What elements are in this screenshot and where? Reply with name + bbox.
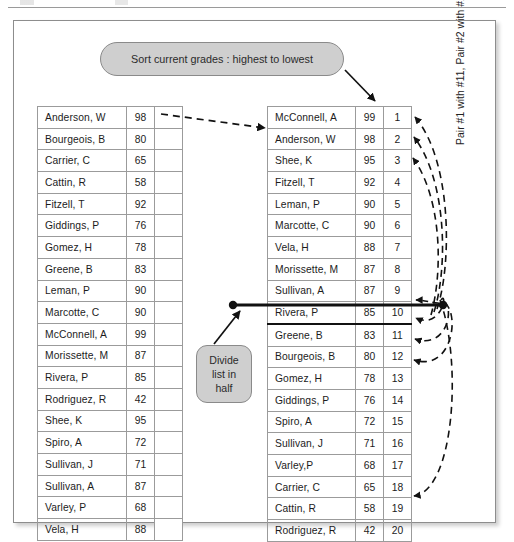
unsorted-student-name: Spiro, A bbox=[38, 432, 127, 454]
unsorted-table-row: Marcotte, C90 bbox=[38, 302, 183, 324]
sorted-table-row: Rivera, P8510 bbox=[268, 302, 412, 324]
unsorted-empty-cell bbox=[155, 475, 183, 497]
sorted-student-grade: 90 bbox=[356, 193, 384, 215]
unsorted-table-row: Rivera, P85 bbox=[38, 367, 183, 389]
sorted-table-row: Morissette, M878 bbox=[268, 258, 412, 280]
unsorted-student-grade: 80 bbox=[127, 128, 155, 150]
sorted-table-row: McConnell, A991 bbox=[268, 107, 412, 129]
sorted-student-name: Leman, P bbox=[268, 193, 356, 215]
sorted-table-row: Rodriguez, R4220 bbox=[268, 520, 412, 542]
sorted-student-rank: 5 bbox=[384, 193, 412, 215]
sorted-student-rank: 15 bbox=[384, 411, 412, 433]
sorted-student-name: Cattin, R bbox=[268, 498, 356, 520]
sorted-student-grade: 68 bbox=[356, 455, 384, 477]
sorted-student-rank: 12 bbox=[384, 346, 412, 368]
sorted-table-row: Fitzell, T924 bbox=[268, 172, 412, 194]
unsorted-empty-cell bbox=[155, 388, 183, 410]
sorted-student-name: Vela, H bbox=[268, 237, 356, 259]
sorted-student-rank: 3 bbox=[384, 150, 412, 172]
page-header-rule bbox=[8, 7, 506, 8]
sorted-student-grade: 92 bbox=[356, 172, 384, 194]
unsorted-table-row: Sullivan, A87 bbox=[38, 475, 183, 497]
unsorted-student-name: McConnell, A bbox=[38, 323, 127, 345]
unsorted-student-grade: 42 bbox=[127, 388, 155, 410]
sorted-student-name: Spiro, A bbox=[268, 411, 356, 433]
sorted-student-rank: 13 bbox=[384, 368, 412, 390]
sorted-student-rank: 4 bbox=[384, 172, 412, 194]
unsorted-student-grade: 71 bbox=[127, 454, 155, 476]
unsorted-table-row: Cattin, R58 bbox=[38, 172, 183, 194]
unsorted-student-grade: 95 bbox=[127, 410, 155, 432]
unsorted-student-grade: 99 bbox=[127, 323, 155, 345]
sorted-student-rank: 11 bbox=[384, 324, 412, 346]
unsorted-empty-cell bbox=[155, 497, 183, 519]
unsorted-student-name: Giddings, P bbox=[38, 215, 127, 237]
sorted-student-rank: 7 bbox=[384, 237, 412, 259]
unsorted-student-name: Anderson, W bbox=[38, 107, 127, 129]
sorted-student-name: Giddings, P bbox=[268, 389, 356, 411]
unsorted-empty-cell bbox=[155, 150, 183, 172]
unsorted-table-row: Anderson, W98 bbox=[38, 107, 183, 129]
sorted-student-name: McConnell, A bbox=[268, 107, 356, 129]
sorted-grades-table: McConnell, A991Anderson, W982Shee, K953F… bbox=[267, 106, 412, 542]
sorted-student-grade: 85 bbox=[356, 302, 384, 324]
sorted-student-name: Rodriguez, R bbox=[268, 520, 356, 542]
unsorted-student-name: Marcotte, C bbox=[38, 302, 127, 324]
unsorted-student-grade: 90 bbox=[127, 302, 155, 324]
sorted-table-row: Spiro, A7215 bbox=[268, 411, 412, 433]
sorted-student-rank: 18 bbox=[384, 476, 412, 498]
unsorted-student-grade: 78 bbox=[127, 237, 155, 259]
sorted-student-grade: 72 bbox=[356, 411, 384, 433]
sorted-student-name: Greene, B bbox=[268, 324, 356, 346]
unsorted-empty-cell bbox=[155, 280, 183, 302]
unsorted-student-grade: 92 bbox=[127, 193, 155, 215]
sorted-student-name: Fitzell, T bbox=[268, 172, 356, 194]
unsorted-student-grade: 88 bbox=[127, 519, 155, 541]
divide-callout-line-2: list in bbox=[212, 367, 236, 381]
sorted-student-rank: 14 bbox=[384, 389, 412, 411]
sorted-student-grade: 78 bbox=[356, 368, 384, 390]
sorted-student-grade: 80 bbox=[356, 346, 384, 368]
sorted-student-grade: 87 bbox=[356, 280, 384, 302]
sorted-table-row: Giddings, P7614 bbox=[268, 389, 412, 411]
unsorted-student-grade: 87 bbox=[127, 345, 155, 367]
unsorted-table-row: Giddings, P76 bbox=[38, 215, 183, 237]
sorted-student-rank: 10 bbox=[384, 302, 412, 324]
divide-callout-line-1: Divide bbox=[209, 353, 238, 367]
unsorted-table-row: McConnell, A99 bbox=[38, 323, 183, 345]
unsorted-student-name: Cattin, R bbox=[38, 172, 127, 194]
sorted-table-row: Leman, P905 bbox=[268, 193, 412, 215]
sorted-student-rank: 1 bbox=[384, 107, 412, 129]
unsorted-student-name: Sullivan, J bbox=[38, 454, 127, 476]
unsorted-empty-cell bbox=[155, 237, 183, 259]
unsorted-empty-cell bbox=[155, 410, 183, 432]
unsorted-empty-cell bbox=[155, 215, 183, 237]
sorted-table-row: Shee, K953 bbox=[268, 150, 412, 172]
unsorted-student-grade: 85 bbox=[127, 367, 155, 389]
sorted-table-row: Marcotte, C906 bbox=[268, 215, 412, 237]
unsorted-student-name: Varley, P bbox=[38, 497, 127, 519]
sorted-student-name: Rivera, P bbox=[268, 302, 356, 324]
unsorted-student-name: Morissette, M bbox=[38, 345, 127, 367]
unsorted-table-row: Gomez, H78 bbox=[38, 237, 183, 259]
unsorted-student-name: Rivera, P bbox=[38, 367, 127, 389]
sorted-table-row: Carrier, C6518 bbox=[268, 476, 412, 498]
sorted-student-grade: 42 bbox=[356, 520, 384, 542]
unsorted-table-row: Sullivan, J71 bbox=[38, 454, 183, 476]
sorted-student-rank: 8 bbox=[384, 258, 412, 280]
unsorted-table-row: Carrier, C65 bbox=[38, 150, 183, 172]
unsorted-empty-cell bbox=[155, 302, 183, 324]
sorted-table-row: Anderson, W982 bbox=[268, 128, 412, 150]
sorted-student-name: Anderson, W bbox=[268, 128, 356, 150]
unsorted-table-row: Leman, P90 bbox=[38, 280, 183, 302]
unsorted-empty-cell bbox=[155, 345, 183, 367]
sorted-student-grade: 58 bbox=[356, 498, 384, 520]
sort-instruction-callout: Sort current grades : highest to lowest bbox=[100, 42, 344, 76]
sorted-student-name: Bourgeois, B bbox=[268, 346, 356, 368]
sorted-student-name: Gomez, H bbox=[268, 368, 356, 390]
unsorted-student-name: Shee, K bbox=[38, 410, 127, 432]
sorted-student-rank: 6 bbox=[384, 215, 412, 237]
unsorted-student-grade: 83 bbox=[127, 258, 155, 280]
sorted-student-grade: 90 bbox=[356, 215, 384, 237]
unsorted-student-grade: 76 bbox=[127, 215, 155, 237]
